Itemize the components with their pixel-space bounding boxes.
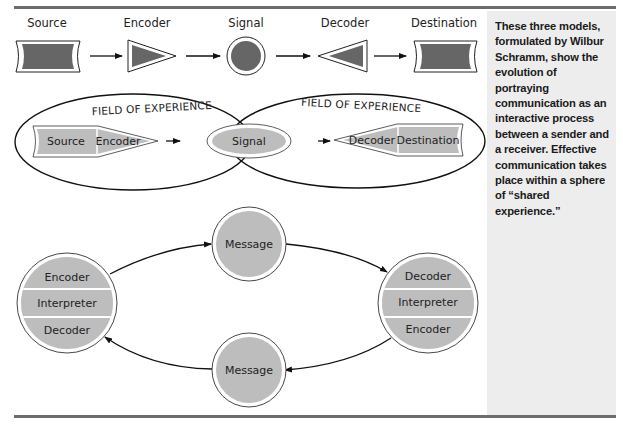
encoder-label: Encoder (123, 16, 170, 30)
sender-field-label: FIELD OF EXPERIENCE (91, 99, 212, 117)
right-encoder-label: Encoder (406, 323, 451, 336)
right-interpreter-label: Interpreter (398, 296, 458, 309)
decoder-label: Decoder (321, 16, 370, 30)
signal-label: Signal (228, 16, 263, 30)
receiver-decoder-label: Decoder (349, 134, 396, 147)
bottom-rule (14, 415, 616, 418)
arrow (285, 338, 391, 370)
bottom-message-label: Message (225, 364, 273, 377)
left-decoder-label: Decoder (44, 324, 91, 337)
caption-text: These three models, formulated by Wilbur… (495, 19, 610, 219)
field-model: FIELD OF EXPERIENCE FIELD OF EXPERIENCE … (15, 94, 485, 190)
signal-shape (227, 37, 265, 75)
source-shape (16, 41, 80, 72)
interactive-model: Encoder Interpreter Decoder Decoder Inte… (17, 207, 478, 407)
sender-encoder-label: Encoder (96, 135, 141, 148)
receiver-shape: Decoder Destination (334, 124, 463, 156)
destination-shape (414, 41, 477, 72)
right-decoder-label: Decoder (405, 270, 452, 283)
arrow (105, 337, 212, 369)
top-message-label: Message (225, 238, 273, 251)
destination-label: Destination (411, 16, 477, 30)
bottom-message-circle: Message (212, 333, 286, 407)
signal-label: Signal (232, 135, 266, 148)
left-interpreter-label: Interpreter (37, 297, 97, 310)
sender-source-label: Source (47, 135, 85, 148)
decoder-shape (318, 40, 367, 72)
arrow (286, 244, 387, 272)
top-message-circle: Message (212, 207, 286, 281)
left-encoder-label: Encoder (45, 271, 90, 284)
signal-ellipse: Signal (207, 124, 291, 158)
arrow (110, 244, 211, 274)
right-party-circle: Decoder Interpreter Encoder (378, 253, 478, 353)
left-party-circle: Encoder Interpreter Decoder (17, 253, 117, 353)
caption-sidebar: These three models, formulated by Wilbur… (487, 11, 616, 415)
receiver-destination-label: Destination (396, 134, 459, 147)
encoder-shape (128, 40, 176, 72)
sender-shape: Source Encoder (33, 126, 158, 157)
receiver-field-label: FIELD OF EXPERIENCE (301, 96, 422, 114)
linear-model: Source Encoder Signal Decoder Destinatio… (16, 16, 477, 75)
source-label: Source (27, 16, 67, 30)
